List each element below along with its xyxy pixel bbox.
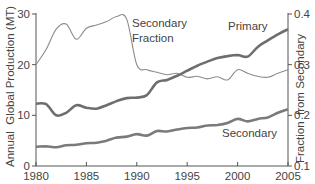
y2-tick-label: 0.4 xyxy=(294,8,311,20)
secondary-fraction-label-line1: Secondary xyxy=(132,17,187,29)
x-tick-label: 1990 xyxy=(124,170,150,182)
line-chart: 0102030 0.10.20.30.4 1980198519901995200… xyxy=(0,0,315,184)
y-axis-title: Annual Global Production (MT) xyxy=(4,6,16,167)
primary-label: Primary xyxy=(228,20,268,32)
secondary-label: Secondary xyxy=(222,127,277,139)
y2-axis-title: Fraction from Secondary xyxy=(294,34,306,163)
x-tick-label: 2005 xyxy=(275,170,301,182)
x-tick-label: 2000 xyxy=(225,170,251,182)
y-tick-label: 30 xyxy=(17,8,30,20)
y-tick-label: 20 xyxy=(17,59,30,71)
y-tick-label: 10 xyxy=(17,109,30,121)
x-axis-ticks: 198019851990199520002005 xyxy=(23,162,301,182)
secondary-fraction-label-line2: Fraction xyxy=(132,32,174,44)
left-axis-ticks: 0102030 xyxy=(17,8,36,172)
x-tick-label: 1995 xyxy=(174,170,200,182)
x-tick-label: 1980 xyxy=(23,170,49,182)
x-tick-label: 1985 xyxy=(74,170,100,182)
